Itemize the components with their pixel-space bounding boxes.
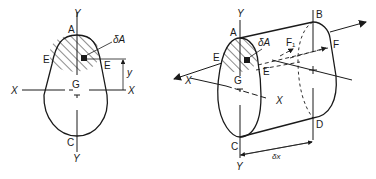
label-point-e-left: E [43,54,50,65]
label-point-a-3d: A [230,27,237,38]
label-x-left-3d: X [184,75,192,86]
label-y-top-3d: Y [237,8,245,19]
label-point-a: A [68,24,75,35]
element-area-square [81,55,87,61]
label-point-e-left-3d: E [213,52,220,63]
label-x-right-3d: X [275,95,283,106]
element-area-square-3d [244,57,250,63]
label-element-area-3d: δA [258,37,271,48]
label-point-e-right: E [104,60,111,71]
label-y-bottom: Y [73,153,81,164]
label-point-f: F [333,39,339,50]
label-point-c: C [67,137,74,148]
label-distance-y: y [126,67,133,78]
label-point-e-right-3d: E [263,66,270,77]
beam-element-figure: Y A B δA F₁ F E E G X X D C δx Y [174,8,366,172]
label-point-f1: F₁ [286,37,296,48]
label-x-left: X [10,85,18,96]
label-point-c-3d: C [231,141,238,152]
label-element-area: δA [113,34,126,45]
label-length-dx: δx [272,152,281,161]
label-y-top: Y [74,8,82,19]
diagram-canvas: Y A E E δA y G X X C Y [0,0,376,179]
label-point-g-3d: G [234,75,242,86]
label-point-b: B [316,9,323,20]
label-x-right: X [127,85,135,96]
cross-section-figure: Y A E E δA y G X X C Y [10,8,135,164]
label-point-g: G [72,79,80,90]
label-y-bottom-3d: Y [236,161,244,172]
label-point-d: D [316,119,323,130]
